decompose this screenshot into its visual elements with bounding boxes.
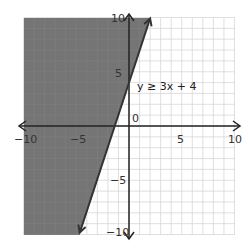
origin-label: 0 xyxy=(132,112,139,125)
y-tick-label: −10 xyxy=(106,226,129,239)
inequality-label: y ≥ 3x + 4 xyxy=(137,80,196,93)
x-tick-label: 5 xyxy=(177,133,184,146)
x-tick-label: 10 xyxy=(228,133,242,146)
y-tick-label: −5 xyxy=(110,174,126,187)
x-tick-label: −10 xyxy=(14,133,37,146)
inequality-graph: −10 −5 5 10 10 5 −5 −10 0 y ≥ 3x + 4 xyxy=(0,0,248,251)
x-tick-label: −5 xyxy=(70,133,86,146)
y-tick-label: 5 xyxy=(115,67,122,80)
y-tick-label: 10 xyxy=(111,12,125,25)
